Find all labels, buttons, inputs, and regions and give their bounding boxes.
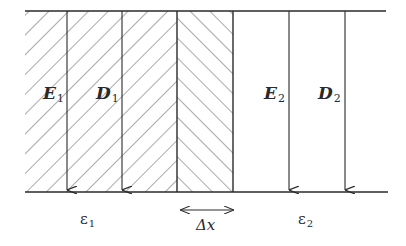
d1-label: D1: [96, 85, 119, 104]
delta-x-strip-hatch: [177, 11, 233, 192]
dielectric-boundary-diagram: [0, 0, 406, 246]
e2-label: E2: [264, 85, 285, 104]
epsilon-2-label: ε2: [298, 212, 313, 229]
epsilon-1-label: ε1: [80, 212, 95, 229]
delta-x-label: Δx: [196, 218, 215, 233]
d2-label: D2: [318, 85, 341, 104]
e1-label: E1: [43, 85, 64, 104]
